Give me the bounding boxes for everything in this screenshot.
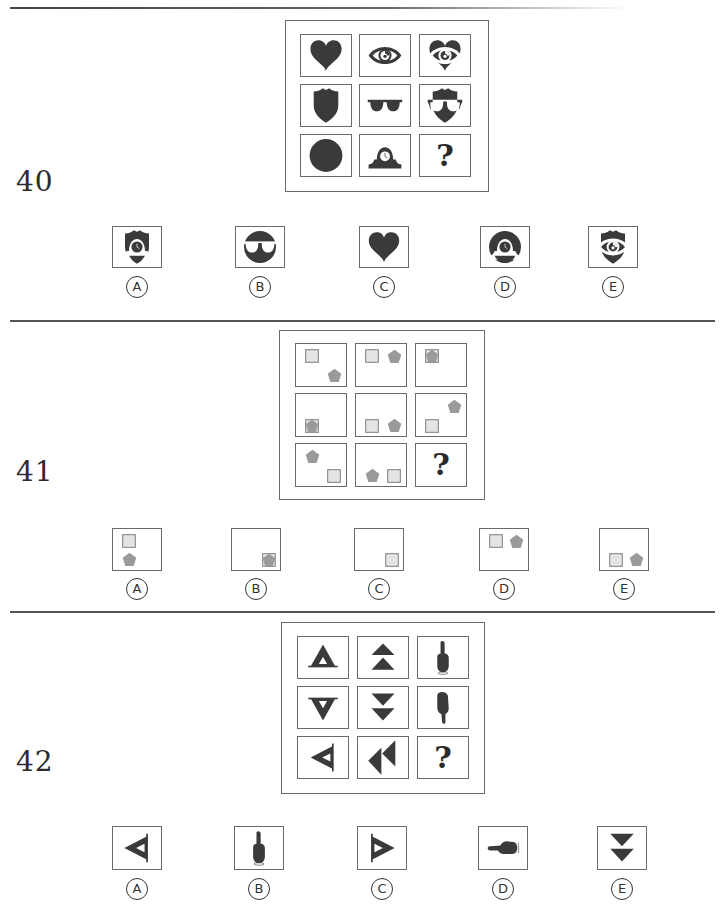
option-b[interactable] [235, 226, 285, 268]
matrix-cell-r3c3: ? [419, 134, 471, 177]
square-shape [327, 469, 341, 483]
divider-40-41 [10, 320, 715, 322]
matrix-cell-r3c1 [295, 443, 347, 487]
matrix-cell-r3c2 [357, 736, 409, 779]
circle-sunglasses-overlay-icon [236, 227, 284, 267]
option-a-label[interactable]: A [126, 578, 148, 600]
option-c[interactable] [357, 826, 407, 870]
option-e[interactable] [599, 528, 649, 571]
eye-icon [360, 35, 410, 76]
option-c-label[interactable]: C [368, 578, 390, 600]
matrix-cell-r2c3 [415, 393, 467, 437]
matrix-cell-r3c3: ? [417, 736, 469, 779]
mantel-clock-icon [360, 135, 410, 176]
pentagon-shape [327, 368, 342, 383]
hollow-triangle-right-icon [358, 827, 406, 869]
matrix-cell-r3c2 [355, 443, 407, 487]
option-d-label[interactable]: D [493, 578, 515, 600]
circle-clock-overlay-icon [481, 227, 529, 267]
circle-icon [301, 135, 351, 176]
square-shape [387, 469, 401, 483]
shield-clock-overlay-icon [113, 227, 161, 267]
matrix-cell-r2c3 [417, 686, 469, 729]
option-b-label[interactable]: B [249, 276, 271, 298]
matrix-cell-r1c1 [295, 343, 347, 387]
matrix-cell-r1c1 [300, 34, 352, 77]
square-shape [122, 534, 136, 548]
option-a-label[interactable]: A [126, 276, 148, 298]
option-b[interactable] [234, 826, 284, 870]
square-shape [489, 534, 503, 548]
option-e-label[interactable]: E [602, 276, 624, 298]
matrix-cell-r2c2 [359, 84, 411, 127]
square-shape [305, 349, 319, 363]
option-a[interactable] [112, 226, 162, 268]
matrix-cell-r1c3 [419, 34, 471, 77]
option-e-label[interactable]: E [611, 878, 633, 900]
hand-pointing-up-icon [418, 637, 468, 678]
double-triangle-up-icon [358, 637, 408, 678]
question-number: 41 [16, 455, 54, 488]
matrix-cell-r2c1 [295, 393, 347, 437]
pentagon-shape [365, 468, 380, 483]
hand-pointing-left-icon [479, 827, 527, 869]
option-a[interactable] [112, 826, 162, 870]
option-c[interactable] [354, 528, 404, 571]
square-shape [425, 419, 439, 433]
shield-sunglasses-overlay-icon [420, 85, 470, 126]
option-d[interactable] [479, 528, 529, 571]
option-d-label[interactable]: D [494, 276, 516, 298]
square-pentagon-overlap-shape [425, 349, 439, 363]
question-mark: ? [416, 447, 466, 482]
matrix-cell-r2c2 [357, 686, 409, 729]
matrix-cell-r1c3 [417, 636, 469, 679]
matrix-cell-r1c1 [297, 636, 349, 679]
pentagon-shape [305, 449, 320, 464]
hand-pointing-down-icon [418, 687, 468, 728]
option-e-label[interactable]: E [613, 578, 635, 600]
heart-icon [360, 227, 408, 267]
matrix-cell-r2c1 [297, 686, 349, 729]
option-b[interactable] [231, 528, 281, 571]
matrix-cell-r2c3 [419, 84, 471, 127]
option-b-label[interactable]: B [248, 878, 270, 900]
hollow-triangle-left-icon [298, 737, 348, 778]
option-a[interactable] [112, 528, 162, 571]
option-d[interactable] [478, 826, 528, 870]
hollow-triangle-left-icon [113, 827, 161, 869]
hollow-triangle-down-icon [298, 687, 348, 728]
pentagon-shape [509, 534, 524, 549]
pentagon-shape [447, 399, 462, 414]
shield-icon [301, 85, 351, 126]
option-c-label[interactable]: C [373, 276, 395, 298]
option-c-label[interactable]: C [371, 878, 393, 900]
square-shape [365, 419, 379, 433]
option-b-label[interactable]: B [245, 578, 267, 600]
matrix-cell-r1c2 [359, 34, 411, 77]
hollow-triangle-up-icon [298, 637, 348, 678]
square-shape [385, 553, 399, 567]
pentagon-shape [122, 552, 137, 567]
pentagon-shape [629, 552, 644, 567]
divider-top [10, 7, 630, 9]
sunglasses-icon [360, 85, 410, 126]
matrix-cell-r2c2 [355, 393, 407, 437]
matrix-cell-r1c2 [355, 343, 407, 387]
question-mark: ? [418, 739, 468, 774]
question-mark: ? [420, 137, 470, 172]
option-c[interactable] [359, 226, 409, 268]
square-pentagon-overlap-shape [262, 553, 276, 567]
option-a-label[interactable]: A [126, 878, 148, 900]
heart-eye-overlay-icon [420, 35, 470, 76]
option-d[interactable] [480, 226, 530, 268]
double-triangle-left-icon [358, 737, 408, 778]
matrix-cell-r2c1 [300, 84, 352, 127]
option-d-label[interactable]: D [492, 878, 514, 900]
double-triangle-down-icon [598, 827, 646, 869]
matrix-cell-r3c2 [359, 134, 411, 177]
option-e[interactable] [588, 226, 638, 268]
matrix-cell-r3c1 [300, 134, 352, 177]
matrix-cell-r3c3: ? [415, 443, 467, 487]
option-e[interactable] [597, 826, 647, 870]
square-shape [365, 349, 379, 363]
